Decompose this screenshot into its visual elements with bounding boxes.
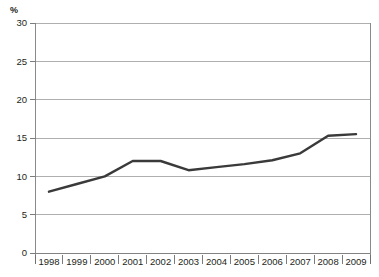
data-series-group: [49, 134, 356, 192]
line-chart-plot: 051015202530 199819992000200120022003200…: [0, 0, 379, 277]
x-tick-label-1999: 1999: [66, 256, 87, 267]
gridlines-group: [35, 23, 370, 253]
x-tick-label-2006: 2006: [262, 256, 283, 267]
x-tick-label-2009: 2009: [345, 256, 366, 267]
y-tick-label-5: 5: [22, 209, 27, 220]
y-tick-label-25: 25: [16, 56, 27, 67]
x-tick-label-2003: 2003: [178, 256, 199, 267]
series-line-0: [49, 134, 356, 192]
x-axis-group: 1998199920002001200220032004200520062007…: [35, 253, 370, 267]
x-tick-label-2001: 2001: [122, 256, 143, 267]
y-tick-label-20: 20: [16, 94, 27, 105]
y-tick-label-0: 0: [22, 247, 27, 258]
x-tick-label-2004: 2004: [206, 256, 227, 267]
x-tick-label-2000: 2000: [94, 256, 115, 267]
y-tick-label-10: 10: [16, 171, 27, 182]
y-axis-group: 051015202530: [16, 17, 370, 264]
x-tick-label-2002: 2002: [150, 256, 171, 267]
x-tick-label-2008: 2008: [318, 256, 339, 267]
y-tick-label-30: 30: [16, 17, 27, 28]
y-tick-label-15: 15: [16, 132, 27, 143]
chart-container: % 051015202530 1998199920002001200220032…: [0, 0, 379, 277]
x-tick-label-1998: 1998: [38, 256, 59, 267]
x-tick-label-2007: 2007: [290, 256, 311, 267]
x-tick-label-2005: 2005: [234, 256, 255, 267]
